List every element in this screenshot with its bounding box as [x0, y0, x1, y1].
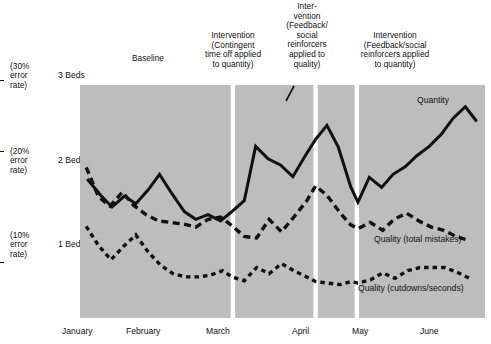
- x-axis-tick-april: April: [292, 326, 309, 336]
- error-rate-line-3: rate): [10, 166, 44, 175]
- phase-header-intervention-2: Inter- vention (Feedback/ social reinfor…: [278, 2, 336, 69]
- phase-header-intervention-3: Intervention (Feedback/social reinforcer…: [340, 31, 450, 69]
- phase-header-line: to quantity): [340, 60, 450, 70]
- x-axis-tick-january: January: [62, 326, 93, 336]
- y-axis-label-1-bed: 1 Bed: [58, 240, 80, 249]
- y-axis-error-rate-10: (10% error rate): [10, 231, 44, 259]
- y-axis-stub-mark-bottom: [0, 262, 4, 263]
- y-axis-label-3-beds: 3 Beds: [58, 71, 85, 80]
- y-axis-tick-1-bed: (10% error rate) 1 Bed: [10, 231, 44, 259]
- y-axis-error-rate-30: (30% error rate): [10, 62, 44, 90]
- phase-header-line: quality): [278, 60, 336, 70]
- phase-header-intervention-1: Intervention (Contingent time off applie…: [190, 31, 276, 69]
- phase-header-line: to quantity): [190, 60, 276, 70]
- series-label-quality-total-mistakes: Quality (total mistakes): [374, 234, 461, 244]
- error-rate-line-3: rate): [10, 250, 44, 259]
- series-label-quantity: Quantity: [417, 95, 449, 105]
- y-axis-error-rate-20: (20% error rate): [10, 147, 44, 175]
- x-axis-tick-february: February: [126, 326, 160, 336]
- y-axis-tick-2-beds: (20% error rate) 2 Beds: [10, 147, 44, 175]
- y-axis-tick-3-beds: (30% error rate) 3 Beds: [10, 62, 44, 90]
- x-axis-tick-june: June: [420, 326, 439, 336]
- x-axis-tick-may: May: [352, 326, 368, 336]
- phase-header-baseline: Baseline: [108, 54, 188, 64]
- y-axis-stub-mark-mid: [0, 151, 4, 152]
- phase-header-line: Baseline: [108, 54, 188, 64]
- y-axis-stub-mark-top: [0, 80, 4, 81]
- series-label-quality-cutdowns-seconds: Quality (cutdowns/seconds): [358, 283, 464, 293]
- x-axis-tick-march: March: [206, 326, 230, 336]
- phase-divider-1: [231, 85, 235, 318]
- error-rate-line-3: rate): [10, 81, 44, 90]
- chart-container: (30% error rate) 3 Beds (20% error rate)…: [0, 0, 491, 344]
